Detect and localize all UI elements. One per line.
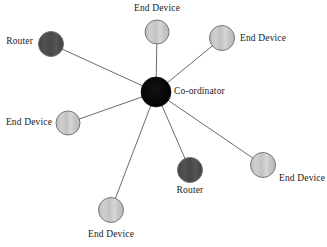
- edge-coordinator-to-end-device-bottom-left: [115, 105, 151, 199]
- label-end-device-bottom-left: End Device: [88, 230, 134, 240]
- label-coordinator: Co-ordinator: [174, 87, 225, 97]
- edge-coordinator-to-router-top-left: [61, 49, 143, 86]
- label-end-device-top-right: End Device: [240, 34, 286, 44]
- node-end-device-bottom-left[interactable]: [99, 198, 124, 223]
- node-end-device-top[interactable]: [145, 20, 169, 44]
- edge-coordinator-to-end-device-top: [156, 43, 157, 78]
- edge-coordinator-to-end-device-left: [78, 97, 142, 120]
- edges-group: [61, 43, 253, 199]
- label-end-device-bottom-right: End Device: [279, 174, 325, 184]
- node-coordinator[interactable]: [141, 77, 171, 107]
- label-end-device-top: End Device: [134, 4, 180, 14]
- node-end-device-left[interactable]: [56, 111, 80, 135]
- edge-coordinator-to-end-device-bottom-right: [168, 100, 254, 159]
- edge-coordinator-to-end-device-top-right: [167, 45, 213, 83]
- label-end-device-left: End Device: [6, 118, 52, 128]
- node-end-device-top-right[interactable]: [210, 26, 235, 51]
- label-router-bottom: Router: [177, 186, 204, 196]
- label-router-top-left: Router: [6, 37, 33, 47]
- node-router-top-left[interactable]: [39, 32, 64, 57]
- node-end-device-bottom-right[interactable]: [251, 153, 276, 178]
- edge-coordinator-to-router-bottom: [162, 105, 186, 160]
- node-router-bottom[interactable]: [178, 158, 203, 183]
- network-topology-diagram: End DeviceRouterEnd DeviceEnd DeviceEnd …: [0, 0, 327, 247]
